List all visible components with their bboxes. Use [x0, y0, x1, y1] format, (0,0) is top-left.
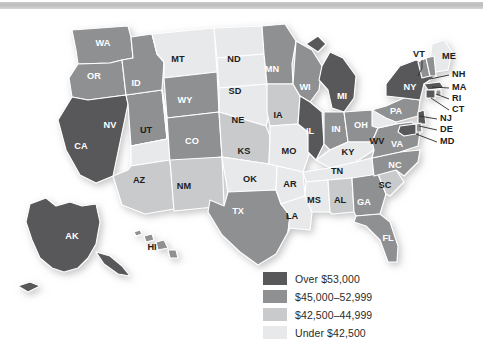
- state-AK[interactable]: [18, 198, 130, 292]
- state-callout-label-MD: MD: [440, 136, 455, 146]
- state-label-SC: SC: [379, 180, 392, 190]
- state-label-LA: LA: [286, 211, 299, 221]
- state-IA[interactable]: [267, 84, 300, 126]
- state-label-WY: WY: [178, 95, 193, 105]
- state-ND[interactable]: [214, 26, 264, 58]
- state-label-NE: NE: [232, 115, 245, 125]
- state-CT[interactable]: [426, 90, 435, 98]
- state-label-MS: MS: [307, 195, 321, 205]
- legend-swatch-tier3: [263, 308, 287, 321]
- state-label-TX: TX: [232, 206, 245, 216]
- state-AZ[interactable]: [113, 160, 174, 214]
- state-callout-label-VT: VT: [413, 49, 425, 59]
- state-callout-label-MA: MA: [452, 82, 467, 92]
- legend-label: Under $42,500: [295, 327, 366, 339]
- state-label-VA: VA: [391, 139, 403, 149]
- state-label-WV: WV: [370, 136, 386, 146]
- legend-row: $45,000–52,999: [263, 288, 372, 305]
- state-label-NY: NY: [404, 82, 417, 92]
- state-callout-label-RI: RI: [452, 93, 461, 103]
- state-label-MO: MO: [282, 146, 297, 156]
- state-label-UT: UT: [140, 125, 153, 135]
- legend-swatch-tier4: [263, 326, 287, 339]
- legend-row: $42,500–44,999: [263, 306, 372, 323]
- state-label-WI: WI: [299, 82, 310, 92]
- state-label-CA: CA: [74, 141, 88, 151]
- state-DE[interactable]: [416, 123, 422, 132]
- state-label-IN: IN: [331, 124, 341, 134]
- state-label-OK: OK: [243, 174, 257, 184]
- state-SD[interactable]: [217, 54, 267, 88]
- state-callout-label-NJ: NJ: [440, 113, 452, 123]
- state-label-HI: HI: [147, 242, 156, 252]
- state-label-AL: AL: [334, 195, 347, 205]
- state-MA[interactable]: [424, 82, 444, 90]
- state-label-AZ: AZ: [133, 175, 146, 185]
- map-canvas: WAORCANVIDMTWYUTAZCONMNDSDNEKSOKTXMNIAMO…: [0, 0, 483, 345]
- legend-swatch-tier2: [263, 290, 287, 303]
- state-label-NV: NV: [104, 120, 118, 130]
- state-label-KS: KS: [238, 146, 251, 156]
- state-label-CO: CO: [185, 136, 199, 146]
- state-label-AR: AR: [283, 179, 297, 189]
- state-label-SD: SD: [229, 86, 242, 96]
- legend-label: $45,000–52,999: [295, 291, 372, 303]
- state-label-ID: ID: [131, 78, 141, 88]
- state-callout-label-DE: DE: [440, 124, 453, 134]
- state-label-ND: ND: [227, 54, 241, 64]
- legend-label: $42,500–44,999: [295, 309, 372, 321]
- legend-label: Over $53,000: [295, 273, 360, 285]
- state-label-MI: MI: [337, 91, 347, 101]
- us-choropleth-map-figure: WAORCANVIDMTWYUTAZCONMNDSDNEKSOKTXMNIAMO…: [0, 0, 483, 345]
- state-callout-label-CT: CT: [452, 104, 465, 114]
- state-label-MT: MT: [171, 54, 185, 64]
- state-NV[interactable]: [126, 90, 167, 146]
- state-label-NC: NC: [388, 160, 402, 170]
- state-callout-label-NH: NH: [452, 69, 466, 79]
- state-label-NM: NM: [177, 181, 192, 191]
- leader-line-CT: [431, 98, 449, 110]
- state-label-FL: FL: [382, 233, 394, 243]
- state-label-TN: TN: [331, 166, 344, 176]
- state-label-MN: MN: [265, 64, 280, 74]
- state-label-KY: KY: [342, 147, 355, 157]
- state-label-WA: WA: [96, 38, 111, 48]
- state-label-IA: IA: [273, 110, 283, 120]
- legend-row: Under $42,500: [263, 324, 372, 341]
- state-label-PA: PA: [390, 106, 402, 116]
- state-label-OR: OR: [87, 71, 101, 81]
- map-legend: Over $53,000$45,000–52,999$42,500–44,999…: [263, 270, 372, 341]
- state-CA[interactable]: [58, 95, 128, 183]
- state-MD[interactable]: [398, 124, 416, 136]
- state-label-AK: AK: [65, 231, 79, 241]
- legend-swatch-tier1: [263, 272, 287, 285]
- state-label-IL: IL: [306, 126, 315, 136]
- state-MN[interactable]: [262, 24, 296, 84]
- state-callout-label-ME: ME: [442, 51, 456, 61]
- state-label-OH: OH: [354, 120, 368, 130]
- legend-row: Over $53,000: [263, 270, 372, 287]
- state-label-GA: GA: [357, 197, 371, 207]
